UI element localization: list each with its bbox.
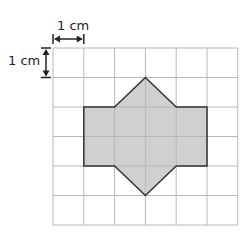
vertical-scale-label: 1 cm — [8, 53, 40, 68]
arrowhead-up-icon — [43, 49, 50, 55]
arrowhead-right-icon — [77, 36, 83, 43]
horizontal-scale-label: 1 cm — [57, 18, 89, 33]
arrowhead-left-icon — [54, 36, 60, 43]
grid-diagram — [0, 0, 250, 235]
arrowhead-down-icon — [43, 71, 50, 77]
